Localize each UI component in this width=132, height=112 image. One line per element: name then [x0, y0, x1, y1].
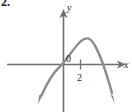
x-tick-label-2: 2	[77, 72, 82, 83]
graph-canvas: y x 0 2	[0, 0, 132, 112]
origin-label: 0	[66, 53, 71, 64]
y-axis-label: y	[66, 2, 72, 13]
figure-container: 2. y x 0 2	[0, 0, 132, 112]
x-axis-label: x	[123, 59, 129, 70]
parabola-curve	[42, 38, 113, 95]
